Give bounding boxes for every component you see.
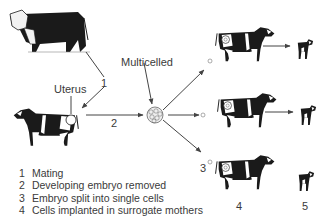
calf-3 xyxy=(299,171,314,191)
legend-item: 3 Embryo split into single cells xyxy=(19,192,203,204)
legend-item: 2 Developing embryo removed xyxy=(19,179,203,191)
single-cell xyxy=(208,160,212,164)
single-cell xyxy=(208,59,212,63)
legend: 1 Mating 2 Developing embryo removed 3 E… xyxy=(19,167,203,217)
surrogate-cow-3 xyxy=(216,155,275,189)
step-number-4: 4 xyxy=(236,201,242,212)
legend-item: 1 Mating xyxy=(19,167,203,179)
single-cell xyxy=(201,113,205,117)
calf-2 xyxy=(301,105,316,125)
step-number-5: 5 xyxy=(302,201,308,212)
step-number-1: 1 xyxy=(101,78,107,89)
surrogate-cow-2 xyxy=(218,93,277,127)
uterus-label: Uterus xyxy=(54,84,86,95)
bull-illustration xyxy=(10,10,90,52)
donor-cow-illustration xyxy=(14,108,79,145)
legend-item: 4 Cells implanted in surrogate mothers xyxy=(19,204,203,216)
multicelled-label: Multicelled xyxy=(121,57,173,68)
multicelled-embryo xyxy=(147,107,163,123)
calf-1 xyxy=(298,39,313,59)
step-number-2: 2 xyxy=(111,118,117,129)
surrogate-cow-1 xyxy=(216,27,275,61)
